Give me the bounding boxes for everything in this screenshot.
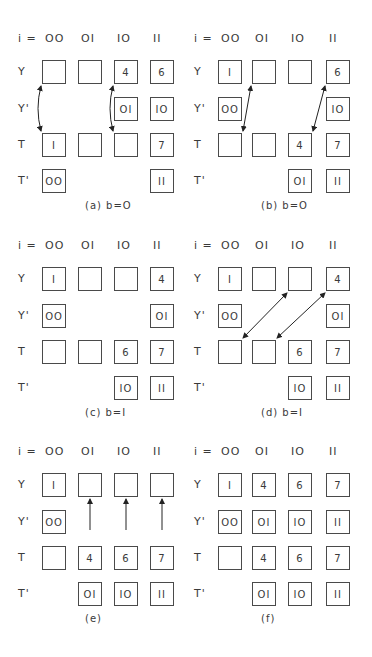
register-cell bbox=[114, 133, 138, 157]
register-cell: I bbox=[42, 133, 66, 157]
register-cell: 4 bbox=[252, 546, 276, 570]
row-label: T' bbox=[18, 587, 30, 600]
register-cell bbox=[252, 267, 276, 291]
register-cell bbox=[42, 340, 66, 364]
panel-caption: (e) bbox=[85, 613, 102, 624]
row-label: Y bbox=[194, 65, 202, 78]
register-cell: 6 bbox=[326, 60, 350, 84]
panel-f: i =OOOIIOIIYI467Y'OOOIIOIIT467T'OIIOII(f… bbox=[186, 413, 372, 613]
column-label-prefix: i = bbox=[194, 239, 213, 252]
register-cell: OO bbox=[42, 304, 66, 328]
row-label: Y' bbox=[18, 309, 30, 322]
register-cell: II bbox=[150, 582, 174, 606]
register-cell bbox=[78, 60, 102, 84]
register-cell: 4 bbox=[150, 267, 174, 291]
row-label: T bbox=[18, 138, 26, 151]
register-cell bbox=[288, 60, 312, 84]
column-header: OI bbox=[81, 239, 95, 252]
row-label: Y bbox=[194, 272, 202, 285]
register-cell: 4 bbox=[252, 473, 276, 497]
panel-c: i =OOOIIOIIYI4Y'OOOIT67T'IOII(c) b=I bbox=[0, 207, 186, 407]
register-cell bbox=[78, 473, 102, 497]
row-label: Y' bbox=[18, 515, 30, 528]
register-cell: 6 bbox=[114, 340, 138, 364]
column-header: OO bbox=[45, 32, 64, 45]
register-cell: IO bbox=[326, 97, 350, 121]
row-label: T' bbox=[194, 587, 206, 600]
swap-arrow bbox=[38, 86, 41, 131]
register-cell: II bbox=[150, 169, 174, 193]
register-cell: 4 bbox=[288, 133, 312, 157]
register-cell: OI bbox=[78, 582, 102, 606]
swap-arrow bbox=[313, 86, 325, 131]
register-cell: 6 bbox=[114, 546, 138, 570]
column-header: II bbox=[329, 32, 338, 45]
register-cell: OO bbox=[42, 510, 66, 534]
panel-a: i =OOOIIOIIY46Y'OIIOTI7T'OOII(a) b=O bbox=[0, 0, 186, 200]
row-label: T bbox=[18, 551, 26, 564]
column-header: OO bbox=[221, 32, 240, 45]
panel-b: i =OOOIIOIIYI6Y'OOIOT47T'OIII(b) b=O bbox=[186, 0, 372, 200]
register-cell: 7 bbox=[150, 546, 174, 570]
register-cell: IO bbox=[288, 582, 312, 606]
register-cell bbox=[252, 340, 276, 364]
register-cell bbox=[252, 60, 276, 84]
column-header: IO bbox=[117, 445, 131, 458]
row-label: Y' bbox=[18, 102, 30, 115]
register-cell: 6 bbox=[288, 340, 312, 364]
register-cell: OO bbox=[218, 510, 242, 534]
column-label-prefix: i = bbox=[194, 32, 213, 45]
register-cell: 7 bbox=[150, 133, 174, 157]
column-label-prefix: i = bbox=[194, 445, 213, 458]
column-header: OI bbox=[81, 32, 95, 45]
register-cell bbox=[150, 473, 174, 497]
column-header: II bbox=[329, 239, 338, 252]
register-cell: IO bbox=[288, 510, 312, 534]
register-cell bbox=[218, 133, 242, 157]
register-cell bbox=[78, 340, 102, 364]
register-cell: OI bbox=[114, 97, 138, 121]
register-cell: IO bbox=[114, 582, 138, 606]
register-cell bbox=[42, 60, 66, 84]
register-cell bbox=[78, 133, 102, 157]
register-cell: 4 bbox=[114, 60, 138, 84]
column-header: OI bbox=[255, 239, 269, 252]
row-label: Y' bbox=[194, 515, 206, 528]
row-label: T bbox=[18, 345, 26, 358]
register-cell bbox=[218, 340, 242, 364]
register-cell: II bbox=[150, 376, 174, 400]
register-cell: 7 bbox=[150, 340, 174, 364]
column-header: OI bbox=[255, 32, 269, 45]
swap-arrow bbox=[277, 293, 325, 338]
register-cell: II bbox=[326, 510, 350, 534]
row-label: Y bbox=[18, 65, 26, 78]
register-cell: 7 bbox=[326, 546, 350, 570]
register-cell: II bbox=[326, 376, 350, 400]
register-cell: 6 bbox=[150, 60, 174, 84]
register-cell: OO bbox=[218, 97, 242, 121]
column-header: OO bbox=[45, 239, 64, 252]
register-cell bbox=[78, 267, 102, 291]
register-cell: 7 bbox=[326, 340, 350, 364]
register-cell bbox=[252, 133, 276, 157]
column-header: II bbox=[153, 239, 162, 252]
column-header: OI bbox=[81, 445, 95, 458]
row-label: Y bbox=[194, 478, 202, 491]
register-cell: I bbox=[42, 267, 66, 291]
register-cell: OI bbox=[326, 304, 350, 328]
register-cell: IO bbox=[114, 376, 138, 400]
register-cell: I bbox=[42, 473, 66, 497]
row-label: Y' bbox=[194, 309, 206, 322]
column-header: OO bbox=[45, 445, 64, 458]
row-label: T' bbox=[194, 174, 206, 187]
register-cell: II bbox=[326, 169, 350, 193]
column-header: IO bbox=[291, 445, 305, 458]
panel-caption: (f) bbox=[261, 613, 275, 624]
column-label-prefix: i = bbox=[18, 32, 37, 45]
register-cell: IO bbox=[288, 376, 312, 400]
swap-arrow bbox=[110, 86, 113, 131]
register-cell: I bbox=[218, 60, 242, 84]
column-header: IO bbox=[117, 239, 131, 252]
column-header: IO bbox=[117, 32, 131, 45]
column-header: OI bbox=[255, 445, 269, 458]
